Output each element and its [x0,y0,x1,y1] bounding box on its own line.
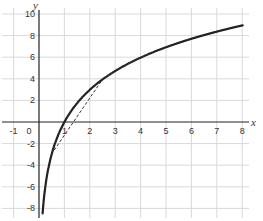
y-tick-label: -6 [27,182,35,192]
y-tick-label: -4 [27,160,35,170]
y-tick-label: 8 [30,31,35,41]
series-curve [43,25,243,213]
x-tick-label: 4 [138,126,143,136]
x-tick-label: 2 [87,126,92,136]
y-tick-label: 4 [30,74,35,84]
y-axis-label: y [32,0,38,11]
x-tick-label: 0 [26,126,31,136]
y-tick-label: 6 [30,52,35,62]
series-secant [54,79,102,150]
x-tick-label: 5 [163,126,168,136]
y-tick-label: 2 [30,95,35,105]
x-tick-label: 8 [240,126,245,136]
x-tick-label: 6 [189,126,194,136]
x-tick-label: 7 [214,126,219,136]
data-series [43,25,243,213]
x-tick-label: -1 [10,126,18,136]
function-plot: -1012345678-8-6-4-2246810 x y [0,0,263,221]
y-tick-label: -8 [27,203,35,213]
x-tick-label: 3 [113,126,118,136]
y-tick-label: -2 [27,139,35,149]
x-axis-label: x [250,116,256,128]
